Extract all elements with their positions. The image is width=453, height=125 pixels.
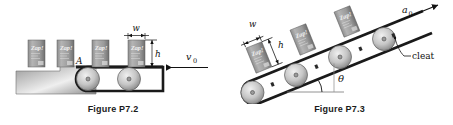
product-box: Zap! [334,6,360,37]
pulley [329,46,352,69]
cleat-label: cleat [412,51,435,61]
box-brand-label: Zap! [59,44,73,51]
figure-p72-drawing: Zap! Zap! [0,0,226,104]
pulley [77,68,100,91]
figure-p72-caption: Figure P7.2 [0,104,226,114]
point-a-label: A [75,56,83,66]
figure-p72: Zap! Zap! [0,0,226,125]
box-group: Zap! Zap! [28,40,145,67]
figure-sheet: Zap! Zap! [0,0,453,125]
figure-p73-caption: Figure P7.3 [226,104,453,114]
pulley [285,64,308,87]
pulley [118,68,141,91]
width-dimension [124,33,149,39]
acceleration-subscript-label: 0 [409,10,413,18]
figure-p73: Zap! Zap! [226,0,453,125]
pulley-group [77,68,141,91]
figure-p73-drawing: Zap! Zap! [226,0,453,104]
angle-label: θ [338,73,344,84]
velocity-subscript-label: 0 [193,57,197,65]
product-box: Zap! [57,40,74,67]
product-box: Zap! [28,40,45,67]
acceleration-label: a [402,4,408,15]
box-brand-label: Zap! [94,44,108,51]
product-box: Zap! [92,40,109,67]
height-label: h [278,40,284,50]
box-brand-label: Zap! [130,44,144,51]
product-box: Zap! [290,24,316,55]
width-label: w [249,19,257,29]
product-box: Zap! [246,42,272,73]
pulley [373,28,396,51]
velocity-label: v [186,51,192,62]
height-label: h [155,49,161,59]
box-brand-label: Zap! [30,44,44,51]
pulley [241,81,264,104]
width-label: w [133,23,141,33]
product-box: Zap! [128,40,145,67]
